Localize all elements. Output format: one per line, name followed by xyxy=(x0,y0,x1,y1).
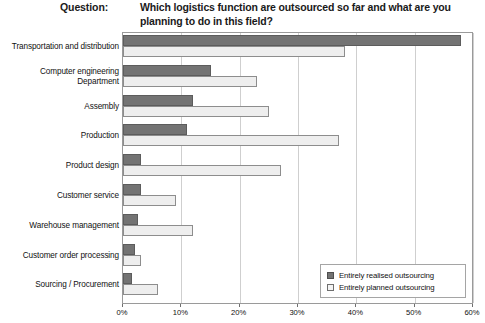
bar-planned xyxy=(123,284,158,295)
bar-planned xyxy=(123,225,193,236)
chart-row: Assembly xyxy=(0,93,485,123)
x-tick-mark xyxy=(122,304,123,307)
bar-realised xyxy=(123,214,138,225)
dark-gray-square-icon xyxy=(327,272,334,279)
category-label: Computer engineeringDepartment xyxy=(0,67,119,87)
x-tick-mark xyxy=(355,304,356,307)
question-title: Which logistics function are outsourced … xyxy=(140,0,470,28)
bar-realised xyxy=(123,154,141,165)
x-tick-label: 10% xyxy=(163,308,197,317)
x-tick-label: 20% xyxy=(222,308,256,317)
chart-row: Customer service xyxy=(0,182,485,212)
category-label: Assembly xyxy=(0,102,119,112)
bar-planned xyxy=(123,135,339,146)
chart-row: Warehouse management xyxy=(0,212,485,242)
x-tick-label: 0% xyxy=(105,308,139,317)
category-label: Transportation and distribution xyxy=(0,42,119,52)
bar-planned xyxy=(123,46,345,57)
question-header: Question: Which logistics function are o… xyxy=(0,0,485,32)
category-label: Sourcing / Procurement xyxy=(0,280,119,290)
bar-realised xyxy=(123,273,132,284)
x-tick-label: 50% xyxy=(397,308,431,317)
bar-realised xyxy=(123,124,187,135)
bar-planned xyxy=(123,255,141,266)
category-label: Product design xyxy=(0,161,119,171)
bar-planned xyxy=(123,195,176,206)
chart-row: Product design xyxy=(0,152,485,182)
x-tick-label: 40% xyxy=(338,308,372,317)
category-label: Production xyxy=(0,131,119,141)
bar-realised xyxy=(123,35,461,46)
bar-realised xyxy=(123,184,141,195)
question-label: Question: xyxy=(60,1,108,13)
legend-label: Entirely realised outsourcing xyxy=(339,271,434,280)
category-label: Warehouse management xyxy=(0,221,119,231)
light-gray-square-icon xyxy=(327,284,334,291)
chart-row: Production xyxy=(0,122,485,152)
bar-planned xyxy=(123,106,269,117)
legend-item: Entirely planned outsourcing xyxy=(327,281,460,293)
category-label: Customer service xyxy=(0,191,119,201)
x-tick-mark xyxy=(297,304,298,307)
bar-chart: Transportation and distributionComputer … xyxy=(0,30,485,323)
bar-realised xyxy=(123,95,193,106)
x-tick-label: 30% xyxy=(280,308,314,317)
legend-label: Entirely planned outsourcing xyxy=(339,283,435,292)
bar-realised xyxy=(123,244,135,255)
chart-row: Computer engineeringDepartment xyxy=(0,63,485,93)
x-tick-mark xyxy=(414,304,415,307)
bar-planned xyxy=(123,76,257,87)
category-label: Customer order processing xyxy=(0,251,119,261)
chart-row: Transportation and distribution xyxy=(0,33,485,63)
x-tick-mark xyxy=(239,304,240,307)
x-tick-label: 60% xyxy=(455,308,485,317)
x-tick-mark xyxy=(472,304,473,307)
bar-realised xyxy=(123,65,211,76)
x-tick-mark xyxy=(180,304,181,307)
bar-planned xyxy=(123,165,281,176)
x-axis: 0%10%20%30%40%50%60% xyxy=(122,304,473,323)
legend-item: Entirely realised outsourcing xyxy=(327,269,460,281)
chart-legend: Entirely realised outsourcingEntirely pl… xyxy=(320,264,466,298)
